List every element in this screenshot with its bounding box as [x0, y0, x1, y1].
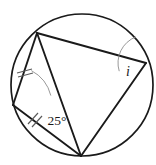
- angle-arc-25-degrees: [31, 71, 51, 96]
- angle-label-i: i: [126, 64, 130, 79]
- angle-label-25-degrees: 25°: [48, 113, 67, 128]
- chord-right-segment: [81, 63, 146, 156]
- diagonal-top-left-to-bottom-segment: [37, 33, 81, 156]
- tick-chord-left-2: [18, 73, 33, 77]
- geometry-diagram-canvas: 25° i: [0, 0, 156, 165]
- geometry-figure-root: 25° i: [0, 0, 156, 165]
- chord-top-segment: [37, 33, 146, 63]
